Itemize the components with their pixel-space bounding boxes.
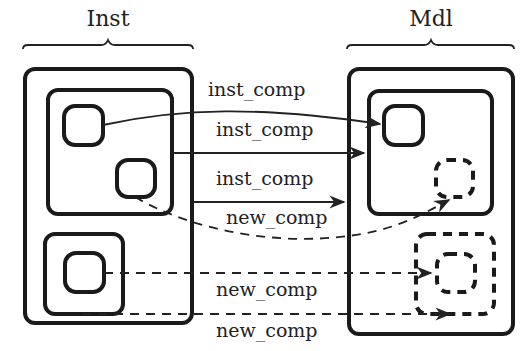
edge-label-6: new_comp: [216, 319, 318, 342]
edge-label-5: new_comp: [216, 278, 318, 301]
mdl-new-component-e: [436, 160, 473, 197]
mdl-new-component-g: [437, 254, 475, 292]
inst-outer-box: [25, 69, 192, 323]
mdl-new-box-f: [416, 234, 494, 314]
inst-component-a: [64, 106, 103, 145]
inst-component-b: [117, 160, 155, 197]
inst-inner-bottom-box: [45, 234, 123, 314]
inst-component-c: [65, 253, 104, 292]
brace-mdl: [347, 40, 514, 49]
edge-label-2: inst_comp: [216, 118, 313, 141]
edge-label-3: inst_comp: [216, 167, 313, 190]
group-title-inst: Inst: [87, 6, 130, 31]
brace-inst: [23, 40, 193, 49]
mdl-outer-box: [349, 69, 513, 334]
group-title-mdl: Mdl: [409, 6, 453, 31]
component-mapping-diagram: Inst Mdl inst_comp inst_comp inst_comp n…: [0, 0, 526, 351]
edge-label-4: new_comp: [226, 206, 328, 229]
edge-label-1: inst_comp: [208, 78, 305, 101]
mdl-component-d: [384, 106, 423, 145]
